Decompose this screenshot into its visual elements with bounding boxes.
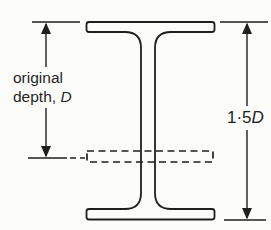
i-beam-outline xyxy=(87,22,215,220)
original-flange-position-dashed xyxy=(87,151,213,162)
new-depth-variable: D xyxy=(252,108,264,127)
new-depth-value: 1·5 xyxy=(227,108,252,127)
new-depth-label: 1·5D xyxy=(225,106,266,130)
beam-depth-figure: original depth, D 1·5D xyxy=(0,0,271,230)
arrow-up-icon xyxy=(41,23,51,35)
original-depth-label-line2: depth, xyxy=(13,88,60,105)
arrow-down-icon xyxy=(242,208,252,220)
arrow-up-icon xyxy=(242,23,252,35)
original-depth-label: original depth, D xyxy=(12,67,75,108)
original-depth-label-line1: original xyxy=(13,69,63,86)
original-depth-variable: D xyxy=(60,88,71,105)
arrow-down-icon xyxy=(41,146,51,158)
